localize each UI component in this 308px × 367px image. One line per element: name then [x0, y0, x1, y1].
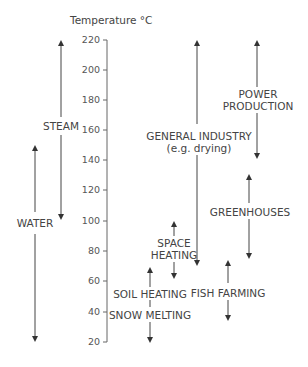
- tick-label: 80: [88, 245, 100, 256]
- range-space-heating: SPACE HEATING: [151, 224, 197, 276]
- label-production: PRODUCTION: [223, 100, 294, 112]
- range-fish-farming: FISH FARMING: [191, 263, 266, 318]
- label-steam: STEAM: [43, 120, 79, 132]
- label-space: SPACE: [157, 237, 190, 249]
- tick-label: 20: [88, 336, 100, 347]
- range-general-industry: GENERAL INDUSTRY (e.g. drying): [146, 43, 252, 263]
- range-water: WATER: [17, 148, 54, 339]
- tick-label: 40: [88, 306, 100, 317]
- tick-label: 60: [88, 275, 100, 286]
- tick-label: 200: [82, 64, 100, 75]
- tick-label: 220: [82, 34, 100, 45]
- label-water: WATER: [17, 217, 54, 229]
- label-snow-melting: SNOW MELTING: [109, 309, 191, 321]
- temperature-use-diagram: Temperature °C 220 200 180 160 140 120 1…: [0, 0, 308, 367]
- range-soil-snow: SOIL HEATING SNOW MELTING: [109, 270, 191, 340]
- tick-label: 160: [82, 124, 100, 135]
- tick-label: 140: [82, 154, 100, 165]
- range-greenhouses: GREENHOUSES: [210, 177, 291, 256]
- label-general-industry-note: (e.g. drying): [167, 142, 232, 154]
- range-steam: STEAM: [43, 43, 79, 217]
- label-soil-heating: SOIL HEATING: [113, 288, 187, 300]
- label-fish-farming: FISH FARMING: [191, 287, 266, 299]
- tick-label: 120: [82, 184, 100, 195]
- label-greenhouses: GREENHOUSES: [210, 206, 291, 218]
- label-general-industry: GENERAL INDUSTRY: [146, 130, 252, 142]
- tick-label: 100: [82, 215, 100, 226]
- tick-label: 180: [82, 94, 100, 105]
- y-axis-tick-labels: 220 200 180 160 140 120 100 80 60 40 20: [82, 34, 100, 347]
- label-power: POWER: [239, 88, 278, 100]
- axis-title: Temperature °C: [69, 14, 152, 26]
- label-heating: HEATING: [151, 249, 197, 261]
- y-axis-ticks: [103, 40, 107, 342]
